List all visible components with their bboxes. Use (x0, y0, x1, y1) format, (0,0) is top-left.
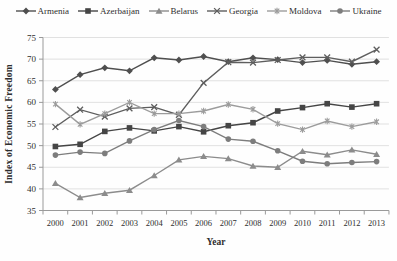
x-tick-label: 2013 (368, 218, 385, 228)
y-tick-label: 70 (27, 54, 37, 64)
marker-square (300, 105, 306, 111)
x-tick-label: 2003 (121, 218, 138, 228)
x-tick-label: 2001 (72, 218, 89, 228)
marker-circle (374, 159, 380, 165)
marker-square (374, 101, 380, 107)
x-tick-label: 2008 (245, 218, 262, 228)
marker-circle (102, 151, 108, 157)
marker-triangle (52, 180, 59, 186)
series-ukraine (53, 118, 380, 167)
x-tick-label: 2007 (220, 218, 237, 228)
x-tick-label: 2005 (170, 218, 187, 228)
marker-circle (275, 148, 281, 154)
marker-circle (300, 158, 306, 164)
y-tick-label: 50 (27, 141, 37, 151)
marker-square (349, 104, 355, 110)
marker-diamond (77, 71, 84, 78)
marker-square (275, 108, 281, 114)
marker-circle (201, 124, 207, 130)
x-tick-label: 2002 (96, 218, 113, 228)
marker-square (127, 125, 133, 131)
marker-x (53, 124, 59, 130)
y-tick-label: 60 (27, 97, 37, 107)
y-tick-label: 45 (27, 162, 37, 172)
axes (39, 38, 389, 215)
marker-diamond (101, 64, 108, 71)
marker-diamond (52, 86, 59, 93)
marker-circle (176, 118, 182, 124)
series-azerbaijan-line (55, 104, 376, 147)
marker-circle (226, 136, 232, 142)
marker-asterisk (53, 101, 58, 107)
y-tick-label: 75 (27, 33, 37, 43)
marker-x (374, 47, 380, 53)
x-tick-label: 2012 (343, 218, 360, 228)
marker-diamond (126, 67, 133, 74)
marker-circle (349, 160, 355, 166)
marker-diamond (151, 54, 158, 61)
marker-diamond (176, 57, 183, 64)
marker-square (250, 120, 256, 126)
y-tick-label: 65 (27, 76, 37, 86)
marker-triangle (151, 172, 158, 178)
marker-circle (151, 127, 157, 133)
marker-square (102, 129, 108, 135)
x-tick-label: 2011 (319, 218, 336, 228)
marker-circle (53, 152, 59, 158)
marker-circle (127, 138, 133, 144)
x-tick-label: 2004 (146, 218, 164, 228)
marker-circle (324, 161, 330, 167)
marker-square (226, 123, 232, 129)
marker-square (201, 129, 207, 135)
marker-square (77, 142, 83, 148)
series-belarus (52, 147, 380, 201)
x-tick-label: 2000 (47, 218, 64, 228)
plot-area: 3540455055606570752000200120022003200420… (0, 0, 397, 261)
marker-circle (250, 139, 256, 145)
marker-circle (77, 149, 83, 155)
x-tick-label: 2010 (294, 218, 311, 228)
marker-square (53, 144, 59, 150)
y-tick-label: 55 (27, 119, 37, 129)
x-tick-label: 2009 (269, 218, 286, 228)
y-tick-label: 35 (27, 206, 37, 216)
economic-freedom-line-chart: ArmeniaAzerbaijanBelarusGeorgiaMoldovaUk… (0, 0, 397, 261)
marker-triangle (348, 147, 355, 153)
x-tick-label: 2006 (195, 218, 212, 228)
y-tick-label: 40 (27, 184, 37, 194)
marker-square (324, 101, 330, 107)
marker-square (176, 124, 182, 130)
